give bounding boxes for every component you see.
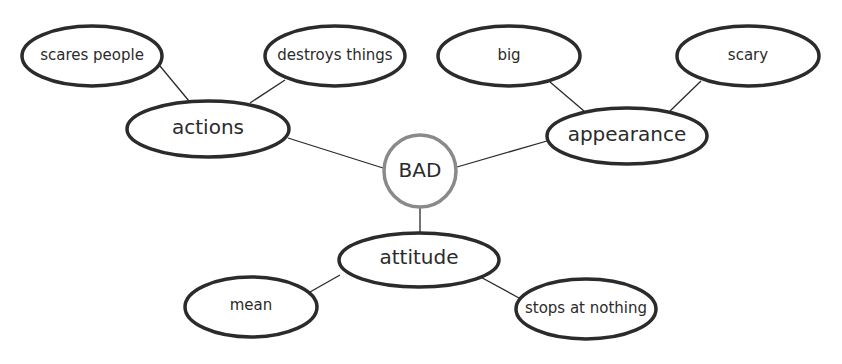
node-label: stops at nothing: [525, 299, 647, 317]
node-appearance[interactable]: appearance: [547, 108, 707, 164]
edge-bad-appearance: [457, 141, 547, 167]
node-label: appearance: [568, 122, 687, 146]
edge-actions-scares-people: [160, 66, 189, 101]
node-scares-people[interactable]: scares people: [22, 26, 162, 86]
node-mean[interactable]: mean: [185, 277, 317, 337]
node-destroys-things[interactable]: destroys things: [265, 26, 405, 86]
node-scary[interactable]: scary: [677, 26, 819, 86]
node-label: attitude: [379, 245, 458, 269]
node-label: actions: [172, 115, 244, 139]
node-attitude[interactable]: attitude: [339, 233, 499, 287]
edge-actions-destroys-things: [250, 80, 285, 103]
edge-appearance-big: [550, 82, 584, 111]
node-label: scares people: [40, 46, 144, 64]
edge-bad-actions: [288, 138, 383, 168]
mind-map: scares people destroys things actions bi…: [0, 0, 842, 364]
node-label: mean: [230, 296, 273, 314]
edge-appearance-scary: [670, 81, 701, 111]
node-stops-at-nothing[interactable]: stops at nothing: [516, 279, 656, 339]
node-big[interactable]: big: [438, 26, 580, 86]
node-label: big: [497, 46, 520, 64]
center-label: BAD: [399, 158, 442, 182]
node-label: scary: [728, 46, 768, 64]
node-actions[interactable]: actions: [127, 101, 289, 157]
edge-attitude-mean: [310, 275, 340, 292]
node-center-bad[interactable]: BAD: [384, 135, 456, 207]
node-label: destroys things: [277, 46, 393, 64]
